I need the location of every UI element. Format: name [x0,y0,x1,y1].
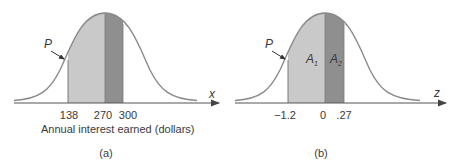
tick-0-27: .27 [336,110,351,121]
pointer-arrow-a [51,51,64,59]
axis-variable-b: z [434,87,440,99]
region-138-270 [68,0,105,103]
panel-a-chart [14,0,219,103]
tick-270: 270 [94,110,112,121]
tick-300: 300 [119,110,137,121]
tick-138: 138 [60,110,78,121]
pointer-label-b: P [265,38,273,50]
tick-0: 0 [320,110,326,121]
caption-b: (b) [314,148,327,159]
axis-title-a: Annual interest earned (dollars) [41,124,194,135]
normal-curves-figure [0,0,455,162]
tick-neg-1-2: −1.2 [274,110,296,121]
area-label-A2: A2 [330,53,342,67]
area-label-A1: A1 [306,53,318,67]
pointer-label-a: P [44,38,52,50]
caption-a: (a) [99,148,112,159]
panel-b-chart [235,0,446,103]
axis-variable-a: x [209,88,215,100]
pointer-arrow-b [272,51,285,59]
